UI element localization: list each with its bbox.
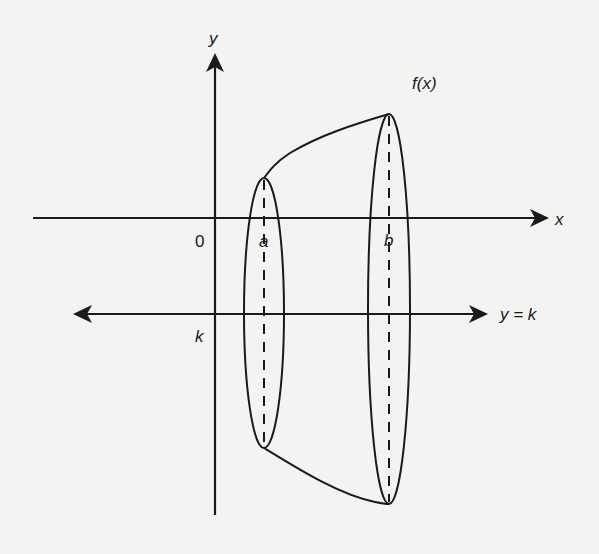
x-axis-label: x xyxy=(555,211,564,228)
diagram-canvas: y x 0 a b k f(x) y = k xyxy=(0,0,599,554)
origin-label: 0 xyxy=(195,233,204,250)
rotation-axis-line xyxy=(73,305,488,323)
rotation-axis-label: y = k xyxy=(500,306,536,323)
function-label: f(x) xyxy=(412,75,437,92)
k-label: k xyxy=(195,328,204,345)
y-axis-label: y xyxy=(209,30,218,47)
diagram-svg xyxy=(0,0,599,554)
y-axis xyxy=(206,53,224,515)
x-axis xyxy=(33,209,549,227)
b-label: b xyxy=(384,232,393,249)
upper-curve xyxy=(264,114,389,178)
cross-section-b xyxy=(368,114,410,504)
a-label: a xyxy=(259,233,268,250)
lower-curve xyxy=(264,448,389,504)
